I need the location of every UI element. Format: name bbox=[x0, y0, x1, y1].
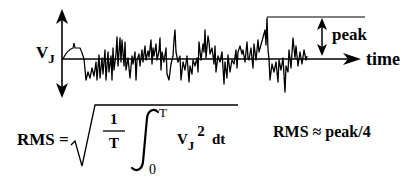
fraction-numerator: 1 bbox=[110, 112, 118, 127]
integral-upper-limit: T bbox=[159, 106, 167, 119]
integrand: VJ2 bbox=[177, 132, 205, 147]
y-axis-label-subscript: J bbox=[48, 51, 55, 66]
peak-label: peak bbox=[332, 26, 367, 43]
fraction-denominator: T bbox=[109, 136, 119, 151]
integrand-base: V bbox=[177, 131, 188, 147]
initial-pulse bbox=[63, 43, 84, 59]
peak-double-arrow bbox=[317, 18, 327, 56]
integrand-subscript: J bbox=[188, 138, 195, 153]
integrand-exponent: 2 bbox=[197, 123, 205, 139]
y-axis-label-base: V bbox=[36, 43, 48, 62]
integral-lower-limit: 0 bbox=[149, 163, 156, 177]
integral-sign bbox=[132, 110, 158, 170]
formula-lhs: RMS = bbox=[17, 131, 69, 148]
noise-signal bbox=[84, 18, 307, 92]
differential: dt bbox=[212, 132, 225, 147]
y-axis-label: VJ bbox=[36, 44, 55, 61]
rms-approximation: RMS ≈ peak/4 bbox=[273, 124, 371, 140]
x-axis-label: time bbox=[366, 50, 400, 68]
